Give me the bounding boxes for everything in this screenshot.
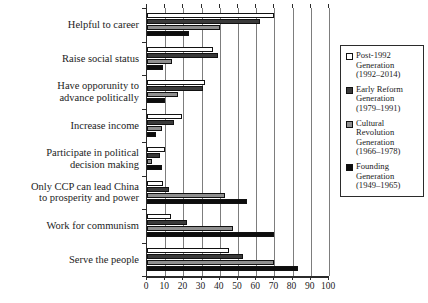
bar-group xyxy=(147,243,328,277)
bar-group xyxy=(147,209,328,243)
bar xyxy=(147,220,187,225)
x-axis-tick-label: 100 xyxy=(321,281,335,292)
x-axis-tick-label: 0 xyxy=(144,281,149,292)
x-axis-tick xyxy=(201,276,202,280)
x-axis-tick xyxy=(273,276,274,280)
category-axis-tick xyxy=(142,109,146,110)
bar xyxy=(147,132,156,137)
bar-group xyxy=(147,42,328,76)
category-axis-tick xyxy=(142,243,146,244)
legend-item: FoundingGeneration(1949–1965) xyxy=(346,162,419,191)
category-axis-tick xyxy=(142,75,146,76)
legend-swatch xyxy=(346,164,353,171)
legend-swatch xyxy=(346,121,353,128)
bar xyxy=(147,181,163,186)
category-axis-labels: Helpful to careerRaise social statusHave… xyxy=(0,8,144,276)
x-axis-tick-label: 20 xyxy=(178,281,188,292)
category-axis-tick xyxy=(142,276,146,277)
bar-group xyxy=(147,109,328,143)
bar xyxy=(147,260,274,265)
x-axis-tick xyxy=(255,276,256,280)
category-label: Work for communism xyxy=(0,209,144,243)
legend-swatch xyxy=(346,87,353,94)
category-label-line: Serve the people xyxy=(69,254,139,266)
category-axis-tick xyxy=(142,8,146,9)
legend-item: CulturalRevolutionGeneration(1966–1978) xyxy=(346,119,419,157)
category-axis-tick xyxy=(142,176,146,177)
bar xyxy=(147,153,160,158)
x-axis-tick-label: 50 xyxy=(232,281,242,292)
bar-group xyxy=(147,8,328,42)
category-label-line: Raise social status xyxy=(62,53,139,65)
bar-group xyxy=(147,75,328,109)
category-label-line: Have opporunity to xyxy=(57,80,139,92)
legend-item: Early ReformGeneration(1979–1991) xyxy=(346,85,419,114)
x-axis-tick xyxy=(182,276,183,280)
bar xyxy=(147,98,165,103)
category-label: Raise social status xyxy=(0,42,144,76)
legend-item: Post-1992Generation(1992–2014) xyxy=(346,51,419,80)
category-label-line: to prosperity and power xyxy=(31,192,139,204)
legend-label: FoundingGeneration(1949–1965) xyxy=(356,162,400,191)
bar xyxy=(147,25,220,30)
x-axis-tick-label: 90 xyxy=(305,281,315,292)
x-axis-tick-label: 60 xyxy=(250,281,260,292)
bar xyxy=(147,31,189,36)
bar xyxy=(147,120,174,125)
category-label-line: Work for communism xyxy=(47,220,139,232)
legend-label: Post-1992Generation(1992–2014) xyxy=(356,51,400,80)
legend-label: Early ReformGeneration(1979–1991) xyxy=(356,85,403,114)
legend-label-line: (1949–1965) xyxy=(356,181,400,191)
bar xyxy=(147,266,298,271)
legend: Post-1992Generation(1992–2014)Early Refo… xyxy=(340,45,424,197)
category-axis-tick xyxy=(142,142,146,143)
category-label: Increase income xyxy=(0,109,144,143)
legend-label-line: (1966–1978) xyxy=(356,147,400,157)
plot-area xyxy=(146,8,328,276)
bar xyxy=(147,19,260,24)
legend-label-line: (1992–2014) xyxy=(356,70,400,80)
x-axis-tick-label: 70 xyxy=(269,281,279,292)
gridline xyxy=(329,8,330,276)
x-axis-tick xyxy=(292,276,293,280)
bar xyxy=(147,248,229,253)
category-label-line: decision making xyxy=(46,159,139,171)
bar xyxy=(147,92,178,97)
bar xyxy=(147,159,152,164)
category-label-line: advance politically xyxy=(57,92,139,104)
bar xyxy=(147,126,162,131)
x-axis-tick xyxy=(146,276,147,280)
bar xyxy=(147,193,225,198)
bar xyxy=(147,86,203,91)
bar xyxy=(147,232,274,237)
bar xyxy=(147,65,163,70)
legend-swatch xyxy=(346,53,353,60)
legend-label: CulturalRevolutionGeneration(1966–1978) xyxy=(356,119,400,157)
bar-group xyxy=(147,142,328,176)
category-label: Helpful to career xyxy=(0,8,144,42)
bar xyxy=(147,199,247,204)
x-axis-tick xyxy=(328,276,329,280)
bar-groups xyxy=(147,8,328,276)
category-label-line: Participate in political xyxy=(46,147,139,159)
x-axis-tick-label: 30 xyxy=(196,281,206,292)
x-axis-tick-top xyxy=(328,4,329,8)
bar xyxy=(147,47,213,52)
category-label: Have opporunity toadvance politically xyxy=(0,75,144,109)
category-label-line: Helpful to career xyxy=(68,19,139,31)
x-axis-tick xyxy=(219,276,220,280)
category-axis-tick xyxy=(142,42,146,43)
category-label: Only CCP can lead Chinato prosperity and… xyxy=(0,176,144,210)
bar xyxy=(147,214,171,219)
x-axis-tick xyxy=(237,276,238,280)
category-label: Serve the people xyxy=(0,243,144,277)
x-axis-tick-label: 10 xyxy=(159,281,169,292)
bar xyxy=(147,254,243,259)
category-label-line: Increase income xyxy=(70,120,139,132)
bar xyxy=(147,53,218,58)
bar-chart: Helpful to careerRaise social statusHave… xyxy=(0,0,428,303)
bar xyxy=(147,165,162,170)
category-label-line: Only CCP can lead China xyxy=(31,181,139,193)
bar xyxy=(147,147,165,152)
x-axis-tick-label: 40 xyxy=(214,281,224,292)
